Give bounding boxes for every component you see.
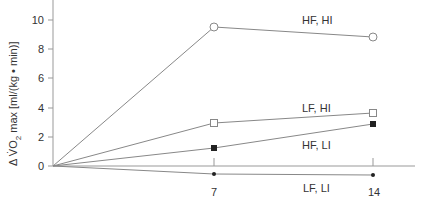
label-hf-li: HF, LI — [302, 139, 331, 151]
y-tick-0: 0 — [38, 160, 44, 172]
marker-hf-li-14 — [370, 121, 376, 127]
y-tick-8: 8 — [38, 43, 44, 55]
y-tick-labels: 0 2 4 6 8 10 — [32, 14, 44, 172]
x-tick-7: 7 — [211, 186, 217, 198]
marker-hf-hi-7 — [210, 23, 218, 31]
marker-hf-hi-14 — [369, 33, 377, 41]
x-tick-14: 14 — [368, 186, 380, 198]
y-tick-6: 6 — [38, 72, 44, 84]
y-tick-10: 10 — [32, 14, 44, 26]
marker-lf-hi-7 — [211, 120, 218, 127]
y-tick-2: 2 — [38, 131, 44, 143]
line-chart: 0 2 4 6 8 10 7 14 Δ V̇O2 max [ml/(kg • m… — [0, 0, 436, 219]
marker-lf-li-7 — [212, 172, 216, 176]
x-ticks — [214, 158, 373, 166]
y-ticks — [48, 20, 53, 166]
marker-hf-li-7 — [211, 145, 217, 151]
label-lf-hi: LF, HI — [302, 102, 331, 114]
label-lf-li: LF, LI — [303, 182, 330, 194]
y-axis-title: Δ V̇O2 max [ml/(kg • min)] — [7, 42, 23, 166]
y-tick-4: 4 — [38, 102, 44, 114]
marker-lf-hi-14 — [370, 110, 377, 117]
marker-lf-li-14 — [371, 173, 375, 177]
label-hf-hi: HF, HI — [302, 14, 333, 26]
